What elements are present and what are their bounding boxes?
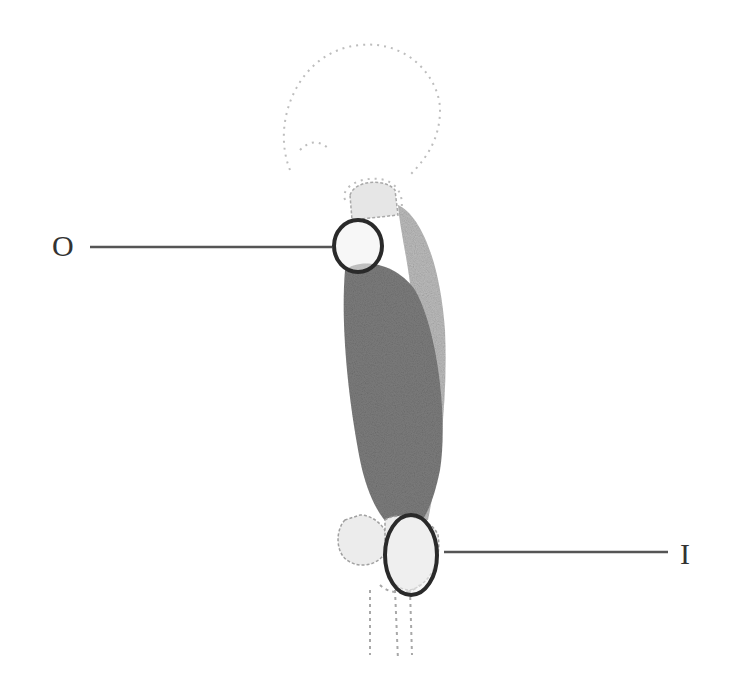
- femur-upper: [350, 182, 398, 220]
- origin-marker-ring: [334, 220, 382, 272]
- origin-label: O: [52, 231, 74, 261]
- diagram-artwork: [0, 0, 738, 689]
- insertion-label: I: [680, 539, 690, 569]
- insertion-marker-ring: [385, 515, 437, 595]
- muscle-diagram: O I: [0, 0, 738, 689]
